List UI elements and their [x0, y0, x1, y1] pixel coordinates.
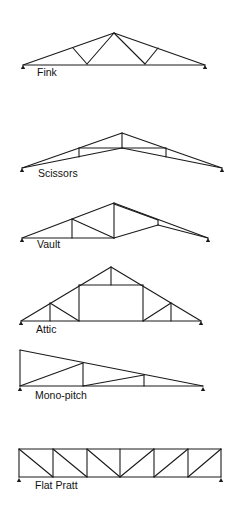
- support-icon: [203, 65, 207, 69]
- truss-scissors: Scissors: [20, 133, 224, 179]
- truss-member: [114, 33, 145, 64]
- support-icon: [20, 238, 24, 242]
- truss-member: [154, 449, 188, 477]
- support-icon: [219, 478, 223, 482]
- truss-member: [73, 48, 87, 64]
- truss-member: [158, 225, 208, 238]
- truss-label: Attic: [36, 323, 56, 335]
- truss-member: [19, 449, 53, 477]
- support-icon: [206, 238, 210, 242]
- truss-diagram-canvas: Fink Scissors Vault Attic Mono-pitch Fla…: [0, 0, 228, 514]
- truss-member: [114, 203, 208, 238]
- support-icon: [21, 65, 25, 69]
- truss-flat-pratt: Flat Pratt: [17, 449, 223, 491]
- support-icon: [20, 168, 24, 172]
- truss-label: Flat Pratt: [35, 479, 78, 491]
- truss-member: [143, 303, 171, 321]
- truss-member: [120, 449, 154, 477]
- truss-fink: Fink: [21, 33, 207, 78]
- truss-label: Scissors: [38, 167, 78, 179]
- truss-member: [50, 303, 79, 321]
- support-icon: [18, 387, 22, 391]
- truss-member: [114, 225, 158, 238]
- truss-member: [87, 449, 120, 477]
- truss-label: Fink: [37, 66, 58, 78]
- support-icon: [220, 168, 224, 172]
- truss-member: [22, 203, 114, 238]
- truss-member: [20, 363, 83, 386]
- support-icon: [199, 321, 203, 325]
- truss-attic: Attic: [19, 267, 203, 335]
- truss-vault: Vault: [20, 203, 210, 250]
- truss-member: [188, 449, 221, 477]
- truss-label: Mono-pitch: [35, 389, 87, 401]
- truss-member: [53, 449, 87, 477]
- truss-member: [145, 48, 158, 64]
- truss-member: [114, 33, 205, 65]
- support-icon: [19, 321, 23, 325]
- truss-member: [83, 375, 144, 386]
- truss-member: [72, 219, 114, 238]
- truss-label: Vault: [37, 238, 60, 250]
- truss-member: [114, 204, 158, 220]
- support-icon: [17, 478, 21, 482]
- truss-mono-pitch: Mono-pitch: [18, 350, 205, 401]
- support-icon: [201, 387, 205, 391]
